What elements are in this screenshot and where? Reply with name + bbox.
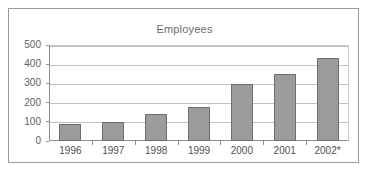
chart-title: Employees [9,23,360,35]
bar-2002[interactable] [317,58,339,141]
y-axis-tick-mark [46,83,49,84]
bar-1999[interactable] [188,107,210,141]
chart-frame: Employees 0100200300400500 1996199719981… [8,8,359,163]
bar-slot [135,45,178,141]
x-axis-tick-labels: 1996199719981999200020012002* [49,145,349,161]
y-axis-tick-mark [46,121,49,122]
bar-series-employees [49,45,349,141]
bar-slot [178,45,221,141]
y-axis-tick-label: 400 [24,59,41,69]
y-axis-tick-label: 500 [24,40,41,50]
y-axis-tick-label: 100 [24,117,41,127]
x-axis-tick-label: 2000 [231,145,253,157]
y-axis-tick-label: 0 [35,136,41,146]
x-axis-tick-label: 2002* [314,145,340,157]
x-axis-tick-label: 1998 [145,145,167,157]
y-axis-tick-label: 200 [24,98,41,108]
bar-slot [220,45,263,141]
x-axis-tick-label: 1997 [102,145,124,157]
bar-slot [263,45,306,141]
plot-wrap [49,45,349,141]
bar-2000[interactable] [231,84,253,141]
screenshot-root: Employees 0100200300400500 1996199719981… [0,0,369,173]
x-axis-tick-label: 1999 [188,145,210,157]
y-axis-tick-labels: 0100200300400500 [9,45,45,141]
x-axis-tick-label: 1996 [59,145,81,157]
bar-1998[interactable] [145,114,167,141]
y-axis-tick-label: 300 [24,78,41,88]
x-axis-tick-label: 2001 [274,145,296,157]
y-axis-tick-mark [46,45,49,46]
bar-slot [306,45,349,141]
bar-slot [92,45,135,141]
y-axis-tick-mark [46,64,49,65]
bar-1996[interactable] [59,124,81,141]
y-axis-tick-mark [46,102,49,103]
bar-slot [49,45,92,141]
y-axis-tick-mark [46,141,49,142]
bar-1997[interactable] [102,122,124,141]
bar-2001[interactable] [274,74,296,141]
